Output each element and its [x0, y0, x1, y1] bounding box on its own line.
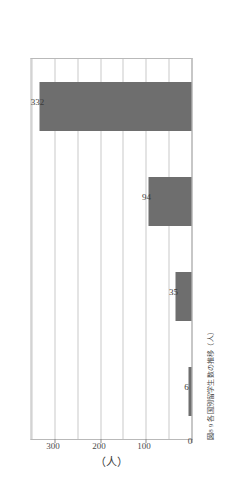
- bar-value-label: 94: [142, 193, 151, 202]
- y-axis-tick-label-200: 200: [95, 439, 104, 455]
- bar[interactable]: 35: [175, 272, 191, 321]
- bar-value-label: 6: [184, 383, 189, 392]
- bar-slot: 35: [31, 249, 191, 344]
- rotated-figure-stage: （人） 0: [0, 0, 237, 478]
- bar[interactable]: 6: [188, 367, 191, 416]
- bar-slot: 6: [31, 344, 191, 439]
- figure-caption: 図8 9 各国別留学生数の推移（人）: [206, 58, 214, 440]
- bar[interactable]: 332: [39, 82, 191, 131]
- y-axis-tick-label-300: 300: [49, 439, 58, 455]
- bar[interactable]: 94: [148, 177, 191, 226]
- plot-area: 0 100 200 300 6: [30, 58, 192, 440]
- figure-page: （人） 0: [0, 0, 237, 478]
- bar-series: 6 35 94 332: [31, 59, 191, 439]
- bar-value-label: 35: [169, 288, 178, 297]
- bar-chart: （人） 0: [0, 0, 237, 478]
- y-axis-tick-label-0: 0: [186, 439, 195, 446]
- bar-slot: 332: [31, 59, 191, 154]
- y-axis-tick-label-100: 100: [140, 439, 149, 455]
- bar-value-label: 332: [30, 98, 44, 107]
- y-axis-unit-text: （人）: [95, 453, 128, 469]
- bar-slot: 94: [31, 154, 191, 249]
